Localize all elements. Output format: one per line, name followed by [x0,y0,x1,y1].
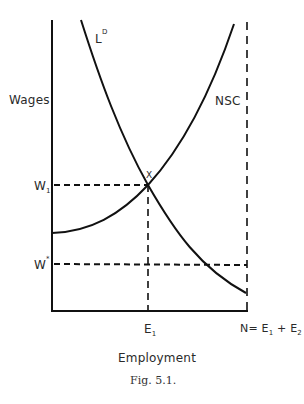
labor-demand-label-sup: D [102,28,108,36]
wstar-dashed-line [54,264,247,265]
nsc-label: NSC [215,95,241,107]
nsc-curve [52,24,234,233]
x-axis-label: Employment [118,352,196,364]
n-label-sub2: 2 [297,329,302,337]
diagram-canvas: Wages LD NSC X W1 W* E1 N= E1 + E2 Emplo… [0,0,304,404]
w1-label-main: W [34,179,46,193]
intersection-label: X [146,171,152,180]
n-label: N= E1 + E2 [240,323,302,337]
figure-caption: Fig. 5.1. [130,375,176,386]
e1-label-sub: 1 [152,330,157,338]
labor-demand-label-main: L [95,32,102,46]
n-label-mid: + E [273,322,297,335]
cropped-header-remnant [66,0,69,4]
e1-label-main: E [144,322,152,336]
labor-demand-label: LD [95,33,107,45]
w1-label-sub: 1 [46,187,51,195]
wstar-label: W* [34,259,50,271]
wstar-label-sup: * [46,255,50,263]
y-axis-label: Wages [9,94,50,106]
diagram-svg [0,0,304,404]
wstar-label-main: W [34,258,46,272]
e1-label: E1 [144,323,156,338]
w1-label: W1 [34,180,51,195]
n-label-main: N= E [240,322,269,335]
